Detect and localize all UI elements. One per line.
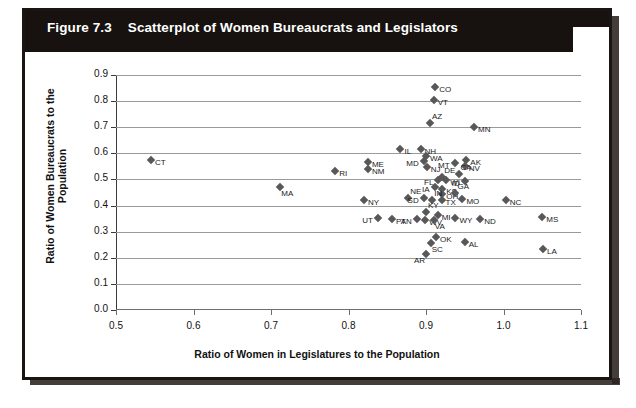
point-marker	[419, 194, 427, 202]
gridline	[116, 75, 581, 76]
figure-number: Figure 7.3	[47, 20, 112, 35]
figure-title: Scatterplot of Women Bureaucrats and Leg…	[128, 20, 458, 35]
figure-shadow-right	[612, 16, 619, 384]
y-tick-mark	[111, 75, 116, 76]
point-marker	[364, 165, 372, 173]
y-tick-label: 0.1	[78, 277, 108, 288]
point-label: SC	[432, 246, 443, 254]
x-tick-mark	[116, 310, 117, 315]
x-tick-mark	[426, 310, 427, 315]
point-marker	[470, 123, 478, 131]
x-axis-title: Ratio of Women in Legislatures to the Po…	[25, 348, 609, 360]
point-marker	[442, 176, 450, 184]
point-label: WY	[459, 217, 472, 225]
point-label: MO	[466, 198, 479, 206]
point-label: CO	[439, 86, 451, 94]
point-marker	[416, 144, 424, 152]
point-label: TX	[446, 199, 456, 207]
point-marker	[388, 214, 396, 222]
point-label: CT	[155, 159, 166, 167]
point-marker	[461, 237, 469, 245]
point-marker	[502, 195, 510, 203]
gridline	[116, 127, 581, 128]
gridline	[116, 284, 581, 285]
point-label: DE	[444, 167, 455, 175]
y-tick-mark	[111, 258, 116, 259]
point-label: UT	[362, 217, 373, 225]
y-tick-label: 0.9	[78, 68, 108, 79]
x-tick-label: 1.1	[564, 320, 598, 331]
y-tick-mark	[111, 232, 116, 233]
y-tick-label: 0.7	[78, 120, 108, 131]
point-marker	[374, 214, 382, 222]
y-axis-line	[116, 75, 117, 310]
point-marker	[538, 212, 546, 220]
x-tick-label: 0.8	[332, 320, 366, 331]
point-marker	[360, 195, 368, 203]
point-label: IA	[422, 186, 430, 194]
y-tick-mark	[111, 284, 116, 285]
x-tick-label: 1.0	[487, 320, 521, 331]
point-label: IL	[404, 148, 411, 156]
y-tick-label: 0.5	[78, 172, 108, 183]
point-marker	[147, 156, 155, 164]
figure-container: Figure 7.3Scatterplot of Women Bureaucra…	[22, 8, 612, 380]
point-label: OK	[440, 236, 452, 244]
x-tick-mark	[271, 310, 272, 315]
x-tick-mark	[349, 310, 350, 315]
y-tick-label: 0.6	[78, 146, 108, 157]
point-label: NM	[372, 168, 384, 176]
point-label: TN	[401, 218, 412, 226]
gridline	[116, 258, 581, 259]
gridline	[116, 101, 581, 102]
point-label: NY	[368, 199, 379, 207]
x-tick-label: 0.6	[177, 320, 211, 331]
x-tick-mark	[581, 310, 582, 315]
point-marker	[421, 216, 429, 224]
point-label: MA	[281, 190, 293, 198]
point-label: GA	[457, 183, 469, 191]
point-label: MD	[406, 160, 418, 168]
point-label: SD	[408, 197, 419, 205]
y-tick-label: 0.0	[78, 303, 108, 314]
plot-canvas: 0.00.10.20.30.40.50.60.70.80.9 0.50.60.7…	[116, 75, 581, 310]
figure-caption: Figure 7.3Scatterplot of Women Bureaucra…	[47, 20, 458, 35]
point-label: MS	[546, 216, 558, 224]
point-label: LA	[547, 248, 557, 256]
figure-caption-bar: Figure 7.3Scatterplot of Women Bureaucra…	[25, 11, 609, 52]
point-label: KY	[428, 202, 439, 210]
x-tick-label: 0.9	[409, 320, 443, 331]
point-label: MN	[478, 126, 490, 134]
y-tick-mark	[111, 179, 116, 180]
x-tick-mark	[504, 310, 505, 315]
x-tick-mark	[194, 310, 195, 315]
point-label: NE	[410, 188, 421, 196]
point-marker	[331, 167, 339, 175]
gridline	[116, 179, 581, 180]
point-label: CA	[461, 164, 472, 172]
y-tick-label: 0.3	[78, 225, 108, 236]
gridline	[116, 232, 581, 233]
point-label: AR	[414, 257, 425, 265]
y-tick-mark	[111, 153, 116, 154]
caption-notch	[573, 27, 609, 52]
point-marker	[458, 195, 466, 203]
plot-area: Ratio of Women Bureaucrats to the Popula…	[25, 52, 609, 380]
x-tick-label: 0.5	[99, 320, 133, 331]
point-marker	[430, 96, 438, 104]
point-label: VA	[435, 223, 445, 231]
point-label: NC	[510, 199, 522, 207]
point-label: ND	[484, 218, 496, 226]
gridline	[116, 153, 581, 154]
y-tick-mark	[111, 127, 116, 128]
x-tick-label: 0.7	[254, 320, 288, 331]
y-axis-title: Ratio of Women Bureaucrats to the Popula…	[44, 61, 68, 291]
point-label: AZ	[432, 113, 442, 121]
point-label: AL	[469, 241, 479, 249]
y-tick-label: 0.4	[78, 199, 108, 210]
y-tick-mark	[111, 206, 116, 207]
point-label: RI	[339, 170, 347, 178]
point-label: VT	[438, 99, 448, 107]
y-tick-mark	[111, 101, 116, 102]
point-marker	[476, 214, 484, 222]
